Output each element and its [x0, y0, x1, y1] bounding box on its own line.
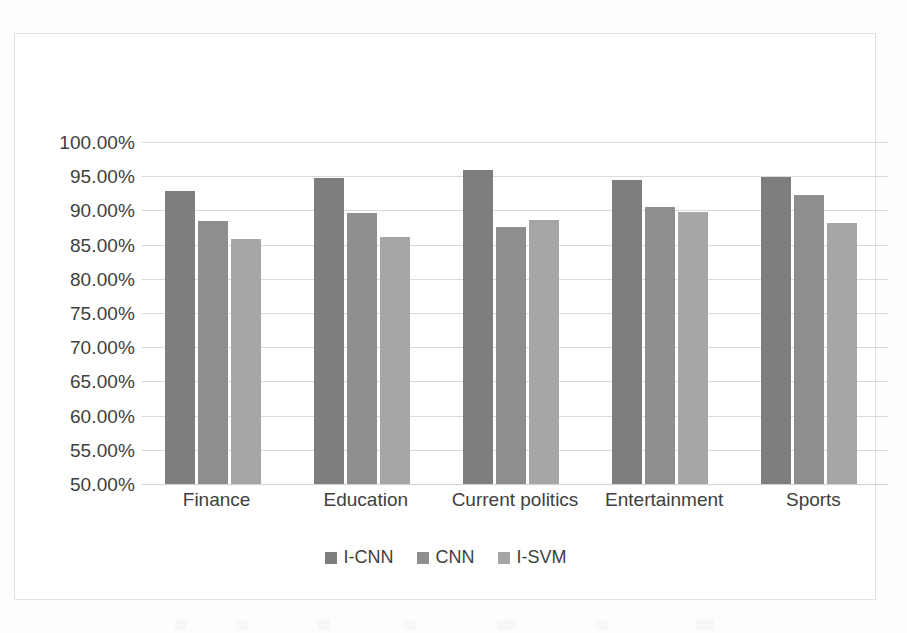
bar[interactable] [496, 227, 526, 484]
y-axis-tick-label: 80.00% [23, 269, 135, 288]
y-axis-tick-label: 95.00% [23, 167, 135, 186]
legend-item[interactable]: I-SVM [498, 547, 566, 568]
y-axis-tick-label: 75.00% [23, 304, 135, 323]
legend-label: CNN [435, 547, 474, 568]
y-axis-tick-label: 85.00% [23, 235, 135, 254]
gridline [142, 484, 888, 485]
bar[interactable] [463, 170, 493, 484]
legend-label: I-CNN [343, 547, 393, 568]
y-axis: 100.00%95.00%90.00%85.00%80.00%75.00%70.… [15, 142, 135, 484]
x-axis: FinanceEducationCurrent politicsEntertai… [142, 489, 888, 511]
legend-label: I-SVM [516, 547, 566, 568]
legend-item[interactable]: I-CNN [325, 547, 393, 568]
bar[interactable] [761, 177, 791, 484]
gridline [142, 142, 888, 143]
scan-artifact [150, 620, 770, 630]
bar[interactable] [794, 195, 824, 484]
legend-swatch-icon [325, 552, 337, 564]
y-axis-tick-label: 90.00% [23, 201, 135, 220]
legend-swatch-icon [417, 552, 429, 564]
x-axis-tick-label: Education [291, 489, 440, 511]
legend-swatch-icon [498, 552, 510, 564]
legend-item[interactable]: CNN [417, 547, 474, 568]
chart-legend: I-CNNCNNI-SVM [15, 547, 877, 568]
y-axis-tick-label: 100.00% [23, 133, 135, 152]
bar[interactable] [529, 220, 559, 484]
screenshot-canvas: 100.00%95.00%90.00%85.00%80.00%75.00%70.… [0, 0, 907, 633]
x-axis-tick-label: Entertainment [590, 489, 739, 511]
x-axis-tick-label: Current politics [440, 489, 589, 511]
bar[interactable] [380, 237, 410, 484]
bar[interactable] [645, 207, 675, 484]
bar[interactable] [314, 178, 344, 484]
bar[interactable] [347, 213, 377, 484]
y-axis-tick-label: 60.00% [23, 406, 135, 425]
bar[interactable] [165, 191, 195, 484]
x-axis-tick-label: Sports [739, 489, 888, 511]
y-axis-tick-label: 65.00% [23, 372, 135, 391]
bar[interactable] [198, 221, 228, 484]
bar[interactable] [231, 239, 261, 484]
y-axis-tick-label: 55.00% [23, 440, 135, 459]
x-axis-tick-label: Finance [142, 489, 291, 511]
y-axis-tick-label: 70.00% [23, 338, 135, 357]
y-axis-tick-label: 50.00% [23, 475, 135, 494]
bar[interactable] [678, 212, 708, 484]
chart-frame: 100.00%95.00%90.00%85.00%80.00%75.00%70.… [14, 33, 876, 600]
bar[interactable] [827, 223, 857, 484]
bar[interactable] [612, 180, 642, 484]
